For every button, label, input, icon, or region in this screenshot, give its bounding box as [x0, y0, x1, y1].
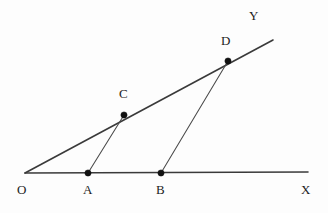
label-point-b: B — [156, 183, 165, 196]
segment-bd — [161, 61, 228, 173]
point-dot-a — [85, 170, 91, 176]
label-point-c: C — [119, 87, 128, 100]
label-axis-y: Y — [249, 9, 259, 22]
point-dot-d — [225, 58, 231, 64]
geometry-figure: O A B C D X Y — [0, 0, 328, 213]
point-dot-b — [158, 170, 164, 176]
segment-ac — [88, 115, 124, 173]
ray-ox — [25, 172, 308, 173]
label-point-a: A — [83, 183, 93, 196]
label-point-d: D — [221, 34, 231, 47]
label-origin-o: O — [17, 183, 27, 196]
point-dot-c — [121, 112, 127, 118]
label-axis-x: X — [301, 183, 311, 196]
ray-oy — [25, 40, 273, 173]
